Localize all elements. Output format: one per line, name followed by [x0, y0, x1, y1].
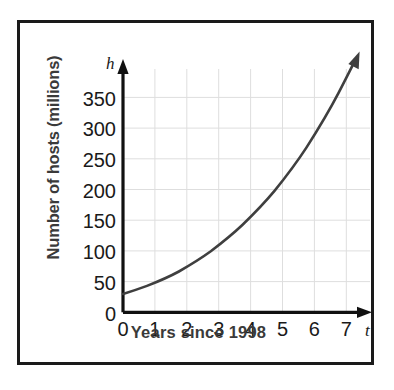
vertical-gridlines: [155, 69, 346, 312]
x-axis: [123, 307, 372, 318]
x-axis-title: Years since 1998: [20, 323, 377, 342]
y-axis-variable-label: h: [106, 54, 115, 73]
horizontal-gridlines: [123, 97, 370, 281]
plot-area: 0 50 100 150 200 250 300 350 0 1 2 3 4 5…: [20, 23, 377, 368]
chart-svg: 0 50 100 150 200 250 300 350 0 1 2 3 4 5…: [20, 23, 377, 368]
y-tick-50: 50: [94, 272, 116, 294]
y-tick-150: 150: [83, 210, 116, 232]
y-tick-250: 250: [83, 149, 116, 171]
data-curve: [123, 52, 360, 294]
y-tick-200: 200: [83, 180, 116, 202]
y-tick-300: 300: [83, 118, 116, 140]
y-tick-350: 350: [83, 88, 116, 110]
y-tick-100: 100: [83, 241, 116, 263]
y-tick-0: 0: [105, 303, 116, 325]
y-tick-labels: 0 50 100 150 200 250 300 350: [83, 88, 116, 325]
chart-figure: Number of hosts (millions): [17, 20, 374, 365]
